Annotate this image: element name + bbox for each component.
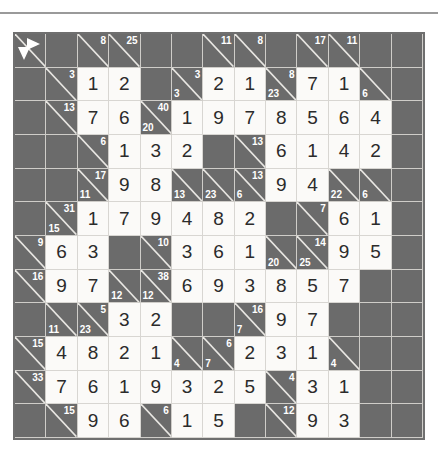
entry-cell[interactable]: 5 xyxy=(235,371,266,405)
entry-cell[interactable]: 1 xyxy=(329,371,360,405)
entry-cell[interactable]: 6 xyxy=(203,236,234,270)
entry-cell[interactable]: 4 xyxy=(360,101,391,135)
entry-cell[interactable]: 6 xyxy=(172,270,203,304)
clue-cell: 7 xyxy=(297,202,328,236)
entry-cell[interactable]: 3 xyxy=(172,371,203,405)
entry-cell[interactable]: 3 xyxy=(329,404,360,438)
entry-cell[interactable]: 1 xyxy=(109,371,140,405)
header-rule-line xyxy=(0,12,438,14)
entry-cell[interactable]: 2 xyxy=(360,135,391,169)
entry-cell[interactable]: 1 xyxy=(172,404,203,438)
entry-digit: 1 xyxy=(235,68,265,101)
clue-cell: 11 xyxy=(203,34,234,68)
entry-cell[interactable]: 1 xyxy=(297,135,328,169)
entry-cell[interactable]: 7 xyxy=(297,68,328,102)
entry-digit: 3 xyxy=(172,371,202,404)
entry-cell[interactable]: 5 xyxy=(203,404,234,438)
entry-cell[interactable]: 1 xyxy=(360,202,391,236)
entry-digit: 7 xyxy=(297,68,327,101)
clue-across-value: 8 xyxy=(101,34,107,47)
clue-cell: 13 xyxy=(46,101,77,135)
clue-cell: 8 xyxy=(235,34,266,68)
entry-cell[interactable]: 3 xyxy=(297,371,328,405)
entry-cell[interactable]: 3 xyxy=(109,303,140,337)
entry-cell[interactable]: 9 xyxy=(141,202,172,236)
entry-cell[interactable]: 7 xyxy=(46,371,77,405)
entry-cell[interactable]: 9 xyxy=(297,404,328,438)
entry-cell[interactable]: 7 xyxy=(78,101,109,135)
clue-across-value: 31 xyxy=(64,202,75,215)
blocked-cell xyxy=(360,371,391,405)
entry-cell[interactable]: 1 xyxy=(172,101,203,135)
blocked-cell xyxy=(392,270,423,304)
blocked-cell xyxy=(392,34,423,68)
entry-cell[interactable]: 9 xyxy=(78,404,109,438)
entry-cell[interactable]: 4 xyxy=(297,169,328,203)
entry-cell[interactable]: 9 xyxy=(203,270,234,304)
clue-cell: 11 xyxy=(329,34,360,68)
entry-cell[interactable]: 8 xyxy=(266,270,297,304)
entry-digit: 6 xyxy=(329,101,359,134)
entry-cell[interactable]: 9 xyxy=(141,371,172,405)
entry-cell[interactable]: 1 xyxy=(235,68,266,102)
entry-cell[interactable]: 4 xyxy=(46,337,77,371)
entry-cell[interactable]: 9 xyxy=(266,303,297,337)
entry-cell[interactable]: 8 xyxy=(203,202,234,236)
entry-cell[interactable]: 1 xyxy=(235,236,266,270)
entry-digit: 9 xyxy=(266,303,296,336)
entry-cell[interactable]: 7 xyxy=(235,101,266,135)
clue-across-value: 16 xyxy=(32,270,43,283)
entry-cell[interactable]: 6 xyxy=(109,101,140,135)
entry-cell[interactable]: 4 xyxy=(329,135,360,169)
entry-cell[interactable]: 6 xyxy=(329,202,360,236)
entry-cell[interactable]: 2 xyxy=(141,303,172,337)
entry-cell[interactable]: 3 xyxy=(266,337,297,371)
entry-cell[interactable]: 5 xyxy=(297,270,328,304)
entry-cell[interactable]: 2 xyxy=(203,68,234,102)
entry-cell[interactable]: 2 xyxy=(172,135,203,169)
entry-cell[interactable]: 2 xyxy=(235,202,266,236)
entry-cell[interactable]: 5 xyxy=(360,236,391,270)
clue-across-value: 13 xyxy=(64,101,75,114)
entry-cell[interactable]: 8 xyxy=(78,337,109,371)
entry-cell[interactable]: 6 xyxy=(78,371,109,405)
entry-cell[interactable]: 6 xyxy=(266,135,297,169)
entry-cell[interactable]: 9 xyxy=(203,101,234,135)
clue-down-value: 23 xyxy=(268,87,279,100)
entry-cell[interactable]: 7 xyxy=(297,303,328,337)
entry-cell[interactable]: 5 xyxy=(297,101,328,135)
entry-cell[interactable]: 7 xyxy=(329,270,360,304)
entry-cell[interactable]: 3 xyxy=(141,135,172,169)
entry-cell[interactable]: 3 xyxy=(172,236,203,270)
entry-cell[interactable]: 1 xyxy=(297,337,328,371)
entry-cell[interactable]: 9 xyxy=(329,236,360,270)
entry-cell[interactable]: 2 xyxy=(203,371,234,405)
clue-across-value: 8 xyxy=(258,34,264,47)
entry-cell[interactable]: 9 xyxy=(109,169,140,203)
entry-cell[interactable]: 6 xyxy=(109,404,140,438)
entry-cell[interactable]: 6 xyxy=(329,101,360,135)
entry-cell[interactable]: 1 xyxy=(329,68,360,102)
entry-cell[interactable]: 4 xyxy=(172,202,203,236)
entry-digit: 7 xyxy=(329,270,359,303)
entry-cell[interactable]: 7 xyxy=(78,270,109,304)
entry-cell[interactable]: 7 xyxy=(109,202,140,236)
blocked-cell xyxy=(392,404,423,438)
entry-cell[interactable]: 3 xyxy=(235,270,266,304)
entry-cell[interactable]: 1 xyxy=(78,202,109,236)
entry-cell[interactable]: 2 xyxy=(109,68,140,102)
entry-cell[interactable]: 1 xyxy=(141,337,172,371)
entry-cell[interactable]: 9 xyxy=(266,169,297,203)
entry-cell[interactable]: 1 xyxy=(78,68,109,102)
entry-cell[interactable]: 3 xyxy=(78,236,109,270)
entry-cell[interactable]: 2 xyxy=(109,337,140,371)
entry-cell[interactable]: 8 xyxy=(141,169,172,203)
entry-cell[interactable]: 8 xyxy=(266,101,297,135)
entry-cell[interactable]: 9 xyxy=(46,270,77,304)
clue-cell: 3 xyxy=(46,68,77,102)
entry-cell[interactable]: 2 xyxy=(235,337,266,371)
entry-cell[interactable]: 1 xyxy=(109,135,140,169)
entry-cell[interactable]: 6 xyxy=(46,236,77,270)
blocked-cell xyxy=(329,303,360,337)
entry-digit: 9 xyxy=(203,270,233,303)
